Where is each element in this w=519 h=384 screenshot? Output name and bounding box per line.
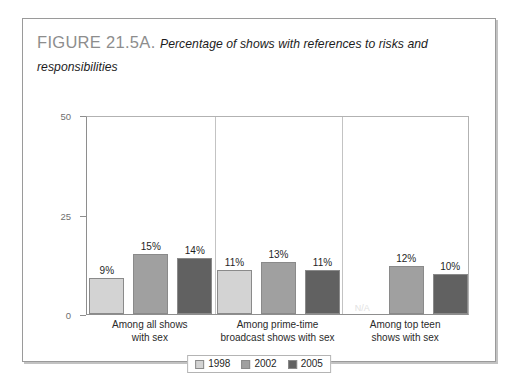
bar[interactable] — [433, 274, 468, 314]
x-category-label: Among all showswith sex — [86, 319, 214, 345]
bar-na-label: N/A — [355, 304, 370, 313]
bar[interactable] — [89, 278, 124, 314]
bar-value-label: 12% — [396, 254, 416, 264]
legend-label: 2002 — [254, 359, 276, 369]
y-tick-label: 25 — [60, 210, 71, 221]
bar-value-label: 14% — [185, 246, 205, 256]
bar-slot: N/A — [345, 117, 380, 314]
bar-group: 9%15%14% — [87, 117, 215, 314]
bar-value-label: 9% — [100, 266, 114, 276]
x-category-label-line: shows with sex — [341, 332, 469, 345]
figure-frame: FIGURE 21.5A. Percentage of shows with r… — [22, 18, 496, 362]
legend-item[interactable]: 2002 — [241, 359, 276, 369]
bar-slot: 13% — [261, 117, 296, 314]
y-axis: 02550 — [23, 116, 80, 315]
bar-value-label: 11% — [313, 258, 332, 268]
chart-legend: 199820022005 — [187, 355, 331, 373]
bar-row: 11%13%11% — [215, 117, 343, 314]
bar-row: N/A12%10% — [342, 117, 470, 314]
x-category-label-line: Among all shows — [86, 319, 214, 332]
bar[interactable] — [217, 270, 252, 314]
legend-label: 1998 — [208, 359, 230, 369]
x-category-label-line: Among prime-time — [214, 319, 342, 332]
figure-number: FIGURE 21.5A. — [37, 33, 156, 51]
bar[interactable] — [261, 262, 296, 314]
legend-swatch — [288, 360, 297, 369]
bar-row: 9%15%14% — [87, 117, 215, 314]
legend-swatch — [241, 360, 250, 369]
y-tick-label: 50 — [60, 111, 71, 122]
bar-slot: 10% — [433, 117, 468, 314]
legend-swatch — [195, 360, 204, 369]
x-category-label-line: broadcast shows with sex — [214, 332, 342, 345]
x-category-label-line: Among top teen — [341, 319, 469, 332]
bar[interactable] — [177, 258, 212, 314]
bar-slot: 11% — [217, 117, 252, 314]
bar-group: 11%13%11% — [215, 117, 343, 314]
bar[interactable] — [305, 270, 340, 314]
legend-label: 2005 — [301, 359, 323, 369]
bar-slot: 14% — [177, 117, 212, 314]
figure-title: FIGURE 21.5A. Percentage of shows with r… — [37, 31, 481, 77]
x-axis-labels: Among all showswith sexAmong prime-timeb… — [86, 319, 469, 353]
bar-slot: 9% — [89, 117, 124, 314]
bar[interactable] — [133, 254, 168, 314]
bar-slot: 11% — [305, 117, 340, 314]
legend-item[interactable]: 1998 — [195, 359, 230, 369]
bar-slot: 15% — [133, 117, 168, 314]
bar-group: N/A12%10% — [342, 117, 470, 314]
bar-value-label: 10% — [440, 262, 460, 272]
bar-value-label: 11% — [225, 258, 244, 268]
y-tick-mark — [80, 315, 86, 316]
bar-slot: 12% — [389, 117, 424, 314]
legend-item[interactable]: 2005 — [288, 359, 323, 369]
bar-value-label: 15% — [141, 242, 161, 252]
x-category-label-line: with sex — [86, 332, 214, 345]
plot-area: 9%15%14%11%13%11%N/A12%10% — [86, 116, 469, 315]
x-category-label: Among top teenshows with sex — [341, 319, 469, 345]
bar[interactable] — [389, 266, 424, 314]
y-tick-label: 0 — [66, 310, 71, 321]
bar-value-label: 13% — [268, 250, 288, 260]
x-category-label: Among prime-timebroadcast shows with sex — [214, 319, 342, 345]
